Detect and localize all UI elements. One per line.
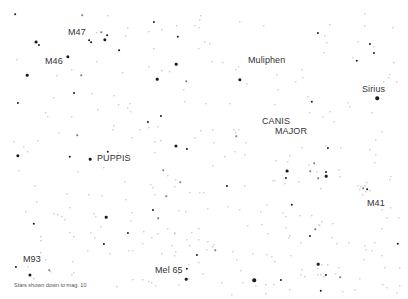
star-icon <box>369 43 371 45</box>
star-icon <box>160 140 161 141</box>
star-icon <box>89 158 92 161</box>
star-icon <box>179 181 181 183</box>
label-m93: M93 <box>23 255 41 264</box>
star-icon <box>185 278 188 281</box>
star-icon <box>309 235 311 237</box>
star-icon <box>234 151 235 152</box>
star-icon <box>125 199 126 200</box>
star-icon <box>15 266 17 268</box>
star-icon <box>71 69 72 70</box>
star-icon <box>40 236 41 237</box>
star-icon <box>390 207 391 208</box>
label-muliphen: Muliphen <box>248 56 285 65</box>
star-icon <box>139 129 140 130</box>
star-icon <box>130 111 131 112</box>
star-icon <box>232 251 233 252</box>
star-icon <box>142 279 143 280</box>
star-icon <box>382 284 383 285</box>
star-icon <box>238 78 241 81</box>
star-icon <box>100 31 102 33</box>
star-icon <box>199 19 200 20</box>
star-icon <box>61 216 62 217</box>
star-icon <box>313 162 315 164</box>
star-icon <box>38 44 40 46</box>
star-icon <box>307 96 308 97</box>
star-icon <box>308 164 309 165</box>
star-icon <box>53 97 54 98</box>
star-icon <box>196 254 198 256</box>
star-icon <box>288 237 289 238</box>
star-icon <box>155 285 156 286</box>
star-icon <box>300 274 301 275</box>
star-icon <box>167 228 168 229</box>
star-icon <box>152 187 153 188</box>
star-icon <box>53 213 54 214</box>
star-icon <box>76 134 78 136</box>
star-icon <box>277 89 278 90</box>
star-icon <box>157 233 158 234</box>
star-icon <box>371 112 372 113</box>
star-icon <box>198 27 199 28</box>
star-icon <box>198 48 199 49</box>
star-icon <box>311 215 312 216</box>
star-icon <box>131 212 132 213</box>
star-icon <box>151 237 152 238</box>
star-icon <box>198 228 199 229</box>
star-icon <box>365 191 366 192</box>
star-icon <box>154 152 155 153</box>
star-icon <box>327 264 328 265</box>
star-icon <box>399 267 400 268</box>
star-icon <box>356 60 358 62</box>
star-icon <box>125 35 126 36</box>
star-icon <box>148 31 149 32</box>
star-icon <box>273 284 274 285</box>
star-icon <box>112 129 113 130</box>
star-icon <box>309 170 311 172</box>
star-icon <box>171 245 172 246</box>
star-icon <box>50 271 51 272</box>
star-icon <box>298 181 299 182</box>
star-icon <box>399 285 400 286</box>
star-icon <box>244 154 245 155</box>
star-icon <box>221 282 222 283</box>
star-icon <box>206 249 207 250</box>
star-icon <box>392 27 393 28</box>
star-chart: M47 M46 Muliphen Sirius CANIS MAJOR PUPP… <box>0 0 408 299</box>
star-icon <box>176 25 177 26</box>
star-icon <box>224 156 225 157</box>
star-icon <box>235 135 237 137</box>
star-icon <box>37 140 38 141</box>
star-icon <box>375 139 376 140</box>
star-icon <box>203 192 204 193</box>
star-icon <box>157 217 159 219</box>
star-icon <box>106 34 108 36</box>
star-icon <box>27 266 28 267</box>
star-icon <box>174 144 177 147</box>
star-icon <box>174 233 175 234</box>
star-icon <box>359 278 360 279</box>
star-icon <box>88 194 89 195</box>
star-icon <box>186 268 188 270</box>
star-icon <box>374 242 375 243</box>
star-icon <box>366 182 367 183</box>
star-icon <box>325 274 327 276</box>
star-icon <box>118 104 119 105</box>
star-icon <box>366 188 368 190</box>
star-icon <box>142 243 143 244</box>
star-icon <box>325 171 327 173</box>
star-icon <box>14 13 16 15</box>
star-icon <box>364 13 365 14</box>
star-icon <box>87 250 88 251</box>
star-icon <box>148 127 149 128</box>
star-icon <box>373 52 375 54</box>
star-icon <box>147 121 149 123</box>
star-icon <box>222 62 223 63</box>
star-icon <box>175 179 176 180</box>
star-icon <box>231 294 232 295</box>
star-icon <box>324 35 325 36</box>
star-icon <box>301 269 302 270</box>
star-icon <box>198 239 199 240</box>
star-icon <box>245 142 246 143</box>
star-icon <box>188 278 189 279</box>
star-icon <box>177 36 179 38</box>
